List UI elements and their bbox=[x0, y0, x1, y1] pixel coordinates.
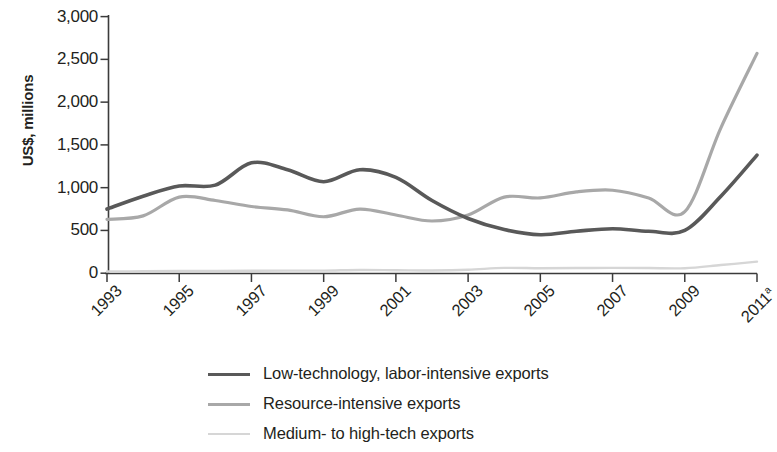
legend-swatch-line-icon bbox=[208, 403, 250, 406]
x-axis-tick-label-superscript: a bbox=[761, 284, 773, 296]
legend-item-label: Low-technology, labor-intensive exports bbox=[263, 364, 549, 383]
legend-swatch-line-icon bbox=[208, 373, 250, 376]
axis-lines bbox=[105, 15, 757, 274]
legend-item[interactable]: Low-technology, labor-intensive exports bbox=[208, 358, 678, 388]
legend-item-label: Medium- to high-tech exports bbox=[263, 424, 474, 443]
series-line-3 bbox=[107, 262, 757, 272]
legend-item[interactable]: Resource-intensive exports bbox=[208, 388, 678, 418]
legend-swatch-line-icon bbox=[208, 433, 250, 435]
data-series-lines bbox=[107, 53, 757, 271]
x-axis-ticks bbox=[107, 274, 757, 283]
y-axis-ticks bbox=[101, 17, 109, 274]
chart-legend: Low-technology, labor-intensive exportsR… bbox=[208, 358, 678, 448]
legend-item-label: Resource-intensive exports bbox=[263, 394, 460, 413]
legend-item[interactable]: Medium- to high-tech exports bbox=[208, 418, 678, 448]
plot-area bbox=[0, 0, 760, 300]
series-line-2 bbox=[107, 53, 757, 221]
series-line-1 bbox=[107, 155, 757, 235]
